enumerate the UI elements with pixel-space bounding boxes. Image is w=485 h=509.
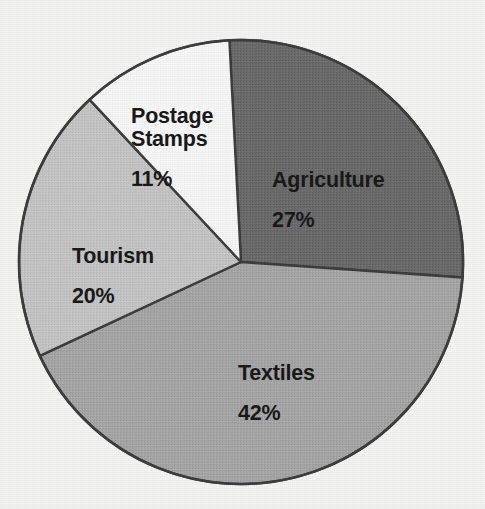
pie-label-textiles: Textiles 42% (238, 345, 315, 442)
pie-label-tourism-name: Tourism (72, 245, 154, 268)
pie-label-postage-stamps-name: Postage Stamps (131, 105, 213, 151)
pie-label-agriculture-name: Agriculture (272, 169, 384, 192)
pie-chart-figure: Agriculture 27% Textiles 42% Tourism 20%… (0, 0, 485, 509)
pie-label-tourism-value: 20% (72, 285, 154, 308)
pie-label-textiles-value: 42% (238, 402, 315, 425)
pie-label-agriculture-value: 27% (272, 209, 384, 232)
pie-label-agriculture: Agriculture 27% (272, 152, 384, 249)
pie-label-postage-stamps: Postage Stamps 11% (131, 88, 213, 208)
pie-label-postage-stamps-value: 11% (131, 168, 213, 191)
pie-label-tourism: Tourism 20% (72, 228, 154, 325)
pie-label-textiles-name: Textiles (238, 362, 315, 385)
